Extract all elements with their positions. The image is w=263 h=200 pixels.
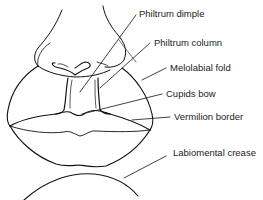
nose-right	[103, 6, 126, 67]
cupids-bow-line	[56, 111, 110, 116]
vermilion-border-upper-right	[110, 114, 150, 130]
nostril-left-curl	[58, 64, 68, 67]
label-labiomental-crease: Labiomental crease	[173, 148, 256, 158]
nose-base	[38, 66, 110, 77]
label-cupids-bow: Cupids bow	[166, 89, 216, 99]
vermilion-border-upper	[10, 114, 56, 126]
label-vermilion-border: Vermilion border	[174, 112, 243, 122]
label-melolabial-fold: Melolabial fold	[170, 63, 231, 73]
lip-line	[10, 126, 150, 136]
labiomental-crease	[24, 174, 138, 200]
philtrum-column-left-inner	[70, 80, 72, 108]
leader-melolabial-fold	[142, 68, 166, 80]
nostril-right-curl	[97, 62, 108, 66]
lower-lip	[10, 126, 150, 167]
leader-vermilion-border	[132, 117, 170, 120]
label-philtrum-dimple: Philtrum dimple	[139, 9, 204, 19]
philtrum-column-left	[56, 78, 68, 114]
lip-anatomy-drawing	[0, 0, 263, 200]
label-philtrum-column: Philtrum column	[154, 38, 222, 48]
philtrum-column-right-inner	[95, 80, 96, 108]
leader-cupids-bow	[82, 94, 162, 114]
leader-labiomental-crease	[124, 156, 166, 178]
nose-bridge-stroke	[119, 40, 136, 62]
melolabial-fold-left	[7, 66, 38, 126]
